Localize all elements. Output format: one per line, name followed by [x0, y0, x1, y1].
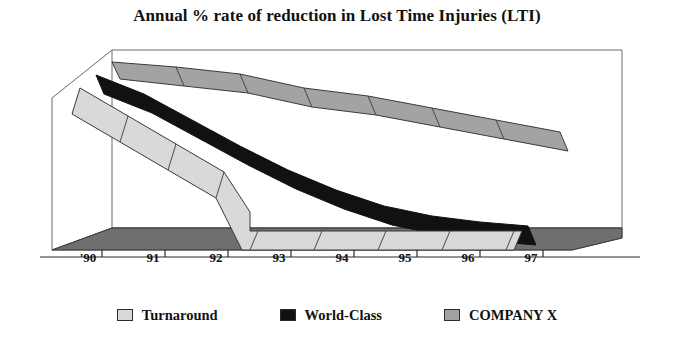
x-tick-label-90: '90 — [68, 250, 108, 266]
legend-item-turnaround[interactable]: Turnaround — [117, 307, 218, 324]
legend-label-turnaround: Turnaround — [142, 307, 218, 324]
legend-swatch-turnaround — [117, 309, 133, 321]
legend-label-company-x: COMPANY X — [469, 307, 557, 324]
legend-label-world-class: World-Class — [305, 307, 382, 324]
x-tick-label-94: 94 — [322, 250, 362, 266]
legend-item-world-class[interactable]: World-Class — [280, 307, 382, 324]
plot-area — [0, 22, 674, 272]
chart-legend: Turnaround World-Class COMPANY X — [0, 300, 674, 330]
x-tick-label-96: 96 — [448, 250, 488, 266]
x-tick-label-93: 93 — [259, 250, 299, 266]
series-ribbon-company-x — [112, 62, 568, 151]
x-tick-label-97: 97 — [511, 250, 551, 266]
x-tick-label-95: 95 — [385, 250, 425, 266]
x-tick-label-91: 91 — [133, 250, 173, 266]
chart-figure: Annual % rate of reduction in Lost Time … — [0, 0, 674, 352]
x-tick-label-92: 92 — [196, 250, 236, 266]
company-x-ribbon — [112, 62, 568, 151]
legend-swatch-company-x — [444, 309, 460, 321]
legend-item-company-x[interactable]: COMPANY X — [444, 307, 557, 324]
legend-swatch-world-class — [280, 309, 296, 321]
